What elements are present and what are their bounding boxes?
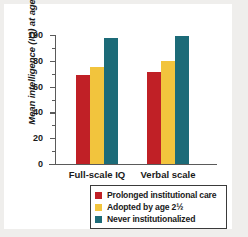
legend-swatch-icon xyxy=(95,192,102,199)
chart-figure: Mean intelligence (IQ) at age 12 0204060… xyxy=(0,0,248,237)
y-tick-major: 60 xyxy=(50,87,55,88)
legend-item: Adopted by age 2½ xyxy=(95,201,222,213)
y-axis-line xyxy=(55,35,56,164)
y-tick-label: 0 xyxy=(38,159,43,169)
y-tick-minor xyxy=(52,48,55,49)
chart-legend: Prolonged institutional careAdopted by a… xyxy=(90,185,227,229)
bar xyxy=(175,36,189,164)
y-tick-major: 100 xyxy=(50,35,55,36)
y-tick-label: 100 xyxy=(28,30,43,40)
x-tick-label: Full-scale IQ xyxy=(69,169,126,180)
y-tick-minor xyxy=(52,151,55,152)
y-tick-minor xyxy=(52,125,55,126)
y-tick-major: 0 xyxy=(50,164,55,165)
plot-area: 020406080100 Full-scale IQVerbal scale xyxy=(55,35,215,164)
legend-swatch-icon xyxy=(95,216,102,223)
legend-item-label: Adopted by age 2½ xyxy=(107,202,183,212)
legend-item-label: Never institutionalized xyxy=(107,214,195,224)
y-tick-major: 20 xyxy=(50,138,55,139)
y-tick-label: 20 xyxy=(33,133,43,143)
y-tick-minor xyxy=(52,74,55,75)
legend-item-label: Prolonged institutional care xyxy=(107,190,216,200)
bar xyxy=(161,61,175,164)
bar xyxy=(104,38,118,164)
y-tick-minor xyxy=(52,100,55,101)
legend-item: Prolonged institutional care xyxy=(95,189,222,201)
x-tick-label: Verbal scale xyxy=(141,169,196,180)
y-tick-label: 80 xyxy=(33,56,43,66)
y-tick-label: 60 xyxy=(33,82,43,92)
y-tick-major: 80 xyxy=(50,61,55,62)
legend-swatch-icon xyxy=(95,204,102,211)
x-axis-line xyxy=(49,164,217,165)
bar xyxy=(90,67,104,164)
chart-plate: Mean intelligence (IQ) at age 12 0204060… xyxy=(4,4,232,229)
bar xyxy=(147,72,161,164)
bar xyxy=(76,75,90,164)
y-tick-label: 40 xyxy=(33,107,43,117)
y-tick-major: 40 xyxy=(50,112,55,113)
legend-item: Never institutionalized xyxy=(95,213,222,225)
